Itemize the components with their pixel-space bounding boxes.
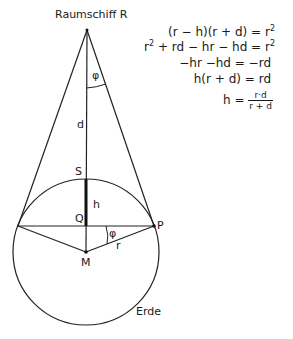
Q-label: Q xyxy=(75,213,84,224)
earth-label: Erde xyxy=(136,306,161,317)
equation-line-3: −hr −hd = −rd xyxy=(179,56,271,70)
equation-line-4: h(r + d) = rd xyxy=(194,72,271,86)
S-label: S xyxy=(75,166,82,177)
angle-arc-p xyxy=(106,226,108,244)
fraction-denominator: r + d xyxy=(248,101,273,111)
P-label: P xyxy=(157,220,164,231)
equation-line-2: r2 + rd − hr − hd = r2 xyxy=(144,40,275,54)
eq5-lhs: h = xyxy=(223,93,248,107)
angle-arc-top xyxy=(87,84,106,88)
equation-line-1: (r − h)(r + d) = r2 xyxy=(168,25,275,39)
equation-line-5: h = r·dr + d xyxy=(223,90,273,111)
eq1-exp: 2 xyxy=(270,24,275,33)
fraction: r·dr + d xyxy=(248,90,273,111)
tangent-line-right xyxy=(87,30,154,226)
point-P xyxy=(152,224,156,228)
d-label: d xyxy=(77,119,84,130)
eq1-text: (r − h)(r + d) = r xyxy=(168,25,270,39)
eq2-text: + rd − hr − hd = r xyxy=(154,40,270,54)
angle-phi-top-label: φ xyxy=(92,70,99,81)
fraction-numerator: r·d xyxy=(248,90,273,101)
r-label: r xyxy=(116,240,121,251)
point-R xyxy=(86,29,89,32)
h-label: h xyxy=(93,199,100,210)
M-label: M xyxy=(81,257,91,268)
eq2-exp-b: 2 xyxy=(270,39,275,48)
radius-left xyxy=(18,226,86,252)
point-M xyxy=(84,250,88,254)
angle-phi-p-label: φ xyxy=(109,228,116,239)
spaceship-label: Raumschiff R xyxy=(55,9,127,20)
